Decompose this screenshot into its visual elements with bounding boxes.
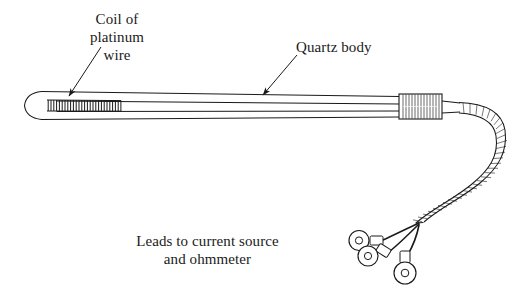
tube-outer-bottom-wall [42,117,401,120]
quartz-leader-arrow [263,55,297,95]
quartz-body-label: Quartz body [296,38,416,56]
coil-turns [48,100,121,111]
lead-wire-1 [383,223,419,240]
terminal-3-barrel [400,251,410,263]
terminal-2-hole [364,252,371,259]
cable-edge-upper [424,103,506,223]
coil-of-platinum-wire-label: Coil of platinum wire [62,10,172,64]
terminal-3-hole [401,269,409,277]
quartz-body-group [25,92,401,120]
ring-terminal-3 [394,251,416,284]
probe-tip-outline [25,92,42,120]
ferrule-neck [442,101,460,113]
cable-edge-lower [416,113,497,223]
ferrule-group [399,94,460,119]
terminal-1-hole [355,237,362,244]
lead-wire-2 [389,224,419,252]
tube-inner-upper-line [57,101,400,104]
braided-cable-group [413,103,507,224]
tube-outer-top-wall [42,92,401,97]
thermometer-probe-figure: Coil of platinum wire Quartz body Leads … [0,0,530,299]
cable-braid-hatch [413,103,507,222]
leads-caption-label: Leads to current source and ohmmeter [80,232,335,268]
